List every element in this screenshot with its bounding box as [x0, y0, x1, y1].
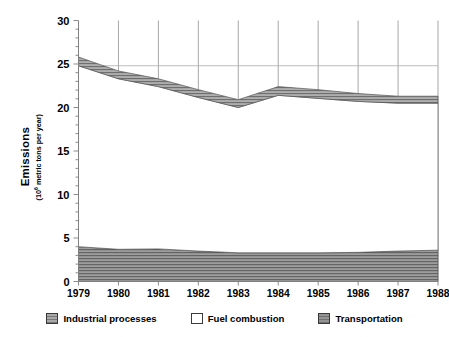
x-tick-label: 1988	[427, 288, 449, 299]
y-tick-label: 25	[57, 58, 69, 70]
y-tick-label: 30	[57, 15, 69, 27]
y-tick-label: 5	[63, 232, 69, 244]
chart-legend: Industrial processes Fuel combustion Tra…	[0, 306, 449, 330]
y-tick-label: 0	[63, 276, 69, 288]
x-tick-label: 1986	[347, 288, 370, 299]
x-axis-ticks: 1979198019811982198319841985198619871988	[67, 282, 449, 299]
x-tick-label: 1987	[387, 288, 410, 299]
x-tick-label: 1979	[67, 288, 90, 299]
legend-label-fuel-combustion: Fuel combustion	[208, 313, 285, 324]
solid-grey-swatch-icon	[318, 313, 330, 324]
stacked-areas	[79, 57, 439, 281]
legend-label-industrial-processes: Industrial processes	[63, 313, 156, 324]
legend-label-transportation: Transportation	[335, 313, 402, 324]
legend-item-transportation[interactable]: Transportation	[318, 313, 402, 324]
x-tick-label: 1983	[227, 288, 250, 299]
legend-item-fuel-combustion[interactable]: Fuel combustion	[191, 313, 285, 324]
legend-item-industrial-processes[interactable]: Industrial processes	[46, 313, 156, 324]
emissions-stacked-area-chart: Emissions (106 metric tons per year) 051…	[0, 0, 449, 337]
y-tick-label: 10	[57, 189, 69, 201]
y-tick-label: 15	[57, 145, 69, 157]
plot-area: 051015202530 197919801981198219831984198…	[0, 0, 449, 337]
x-tick-label: 1982	[187, 288, 210, 299]
x-tick-label: 1984	[267, 288, 290, 299]
y-axis-ticks: 051015202530	[57, 15, 78, 288]
hatched-grey-swatch-icon	[46, 313, 58, 324]
x-tick-label: 1985	[307, 288, 330, 299]
y-tick-label: 20	[57, 102, 69, 114]
x-tick-label: 1980	[107, 288, 130, 299]
white-swatch-icon	[191, 313, 203, 324]
x-tick-label: 1981	[147, 288, 170, 299]
